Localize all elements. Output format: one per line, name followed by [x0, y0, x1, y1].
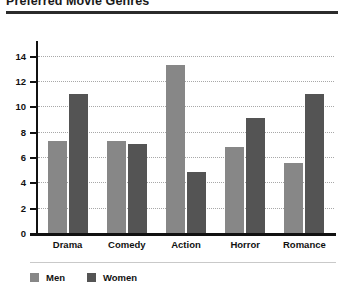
- x-axis-line: [30, 233, 336, 236]
- bar-comedy-men: [107, 141, 126, 233]
- bar-comedy-women: [128, 144, 147, 233]
- x-tick-label-action: Action: [171, 239, 201, 250]
- bar-action-women: [187, 172, 206, 233]
- bar-action-men: [166, 65, 185, 233]
- x-tick-label-horror: Horror: [230, 239, 260, 250]
- legend-divider: [30, 262, 336, 263]
- y-tick-label: 0: [0, 228, 26, 239]
- y-tick-mark: [30, 182, 37, 184]
- y-tick-label: 10: [0, 101, 26, 112]
- y-tick-label: 8: [0, 126, 26, 137]
- legend-item-women: Women: [87, 272, 137, 283]
- legend-item-men: Men: [30, 272, 65, 283]
- y-tick-mark: [30, 233, 37, 235]
- x-tick-label-drama: Drama: [53, 239, 83, 250]
- y-tick-mark: [30, 56, 37, 58]
- legend-label: Women: [103, 272, 137, 283]
- y-tick-label: 2: [0, 202, 26, 213]
- y-tick-mark: [30, 81, 37, 83]
- y-tick-label: 14: [0, 50, 26, 61]
- y-tick-mark: [30, 157, 37, 159]
- bar-romance-women: [305, 94, 324, 233]
- plot-area: [38, 43, 334, 233]
- y-tick-label: 12: [0, 76, 26, 87]
- bar-romance-men: [284, 163, 303, 233]
- bar-horror-women: [246, 118, 265, 233]
- chart-title: Preferred Movie Genres: [6, 0, 149, 8]
- x-tick-label-romance: Romance: [283, 239, 326, 250]
- legend-swatch-women-icon: [87, 273, 96, 282]
- bar-drama-women: [69, 94, 88, 233]
- chart-legend: MenWomen: [30, 272, 137, 283]
- bar-drama-men: [48, 141, 67, 233]
- gridline: [38, 56, 334, 57]
- gridline: [38, 81, 334, 82]
- x-tick-label-comedy: Comedy: [108, 239, 145, 250]
- bar-horror-men: [225, 147, 244, 233]
- y-tick-mark: [30, 132, 37, 134]
- title-divider: [6, 11, 338, 14]
- legend-swatch-men-icon: [30, 273, 39, 282]
- y-tick-mark: [30, 106, 37, 108]
- y-tick-label: 4: [0, 177, 26, 188]
- y-tick-label: 6: [0, 152, 26, 163]
- y-tick-mark: [30, 208, 37, 210]
- legend-label: Men: [46, 272, 65, 283]
